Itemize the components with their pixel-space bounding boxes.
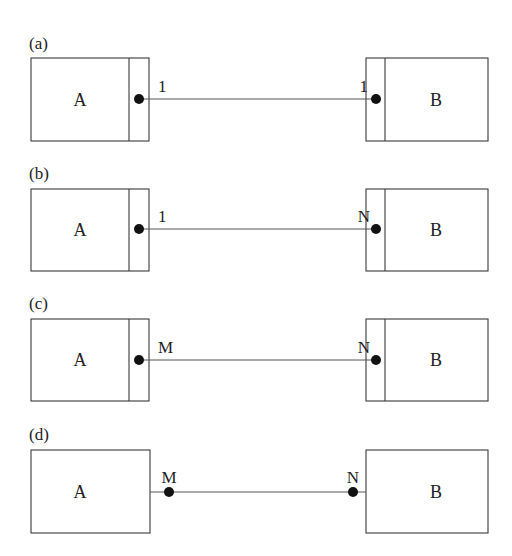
entity-box-b [366,319,488,401]
cardinality-left: M [158,338,173,357]
entity-label-a: A [74,482,87,502]
entity-box-a [31,58,149,141]
panel-label: (c) [29,294,48,313]
connector-dot-icon [348,487,358,497]
cardinality-left: 1 [158,77,167,96]
entity-label-b: B [430,90,442,110]
connector-dot-icon [371,224,381,234]
panel-label: (d) [29,425,49,444]
panel-c: (c) A B M N [29,294,488,401]
panel-d: (d) A B M N [29,425,488,533]
connector-dot-icon [134,355,144,365]
connector-dot-icon [134,94,144,104]
connector-dot-icon [164,487,174,497]
entity-label-a: A [74,220,87,240]
entity-label-b: B [430,482,442,502]
connector-dot-icon [371,355,381,365]
panel-b: (b) A B 1 N [29,164,488,271]
connector-dot-icon [371,94,381,104]
cardinality-left: M [161,468,176,487]
entity-box-a [31,319,149,401]
er-cardinality-diagram: (a) A B 1 1 (b) A B 1 N (c) A B [0,0,512,556]
panel-label: (a) [29,34,48,53]
cardinality-right: N [358,207,370,226]
cardinality-right: N [358,338,370,357]
entity-box-b [366,58,488,141]
entity-box-b [366,189,488,271]
cardinality-right: 1 [360,77,369,96]
entity-label-b: B [430,350,442,370]
entity-label-a: A [74,90,87,110]
cardinality-left: 1 [158,207,167,226]
panel-a: (a) A B 1 1 [29,34,488,141]
entity-label-b: B [430,220,442,240]
entity-box-a [31,450,150,533]
panel-label: (b) [29,164,49,183]
entity-box-a [31,189,149,271]
entity-label-a: A [74,350,87,370]
connector-dot-icon [134,224,144,234]
cardinality-right: N [347,468,359,487]
entity-box-b [366,450,488,533]
